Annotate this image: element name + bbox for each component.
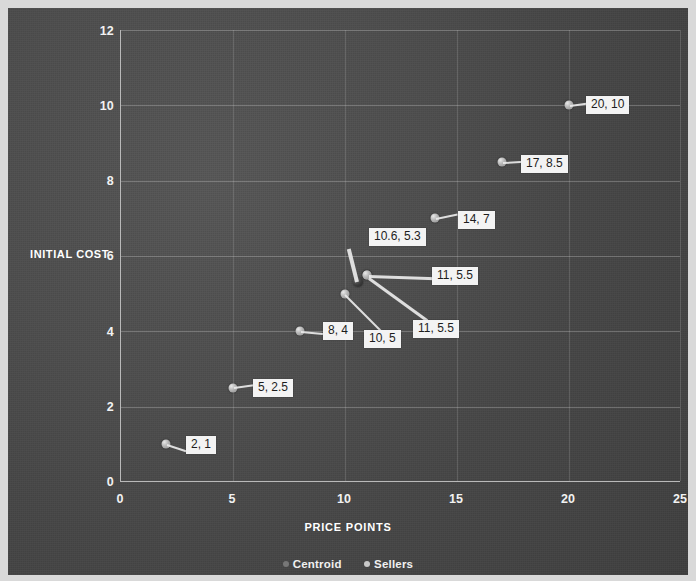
y-tick-8: 8 (90, 174, 114, 188)
leader-line-centroid (347, 249, 359, 283)
gridline-y-12 (121, 30, 680, 31)
gridline-x-25 (680, 30, 681, 481)
legend-label-sellers: Sellers (374, 558, 413, 570)
gridline-x-15 (457, 30, 458, 481)
gridline-y-8 (121, 181, 680, 182)
x-tick-0: 0 (117, 492, 124, 506)
gridline-x-5 (233, 30, 234, 481)
leader-line-11-5.5-b (368, 277, 428, 322)
x-tick-25: 25 (673, 492, 687, 506)
y-tick-0: 0 (90, 475, 114, 489)
leader-line-2-1 (167, 444, 187, 452)
callout-centroid: 10.6, 5.3 (369, 228, 426, 246)
y-tick-6: 6 (90, 249, 114, 263)
callout-2-1: 2, 1 (186, 436, 216, 454)
leader-line-14-7 (436, 213, 458, 220)
x-tick-15: 15 (449, 492, 463, 506)
x-tick-5: 5 (229, 492, 236, 506)
gridline-y-6 (121, 256, 680, 257)
callout-5-2.5: 5, 2.5 (253, 379, 293, 397)
legend-item-centroid[interactable]: Centroid (283, 558, 342, 570)
legend-item-sellers[interactable]: Sellers (364, 558, 413, 570)
callout-20-10: 20, 10 (586, 96, 629, 114)
callout-11-5.5-b: 11, 5.5 (413, 320, 459, 338)
legend-marker-sellers-icon (364, 561, 370, 567)
gridline-x-20 (569, 30, 570, 481)
x-axis-title: PRICE POINTS (8, 521, 688, 533)
gridline-x-10 (345, 30, 346, 481)
x-tick-10: 10 (337, 492, 351, 506)
callout-10-5: 10, 5 (364, 330, 401, 348)
chart-legend: Centroid Sellers (8, 554, 688, 572)
callout-8-4: 8, 4 (323, 322, 353, 340)
chart-canvas: INITIAL COST 12 10 8 6 4 2 0 0 5 10 15 2… (8, 8, 688, 575)
y-tick-2: 2 (90, 400, 114, 414)
y-tick-10: 10 (90, 99, 114, 113)
y-tick-4: 4 (90, 325, 114, 339)
y-tick-12: 12 (90, 24, 114, 38)
legend-label-centroid: Centroid (293, 558, 342, 570)
x-tick-20: 20 (561, 492, 575, 506)
scatter-chart: INITIAL COST 12 10 8 6 4 2 0 0 5 10 15 2… (0, 0, 696, 581)
gridline-y-2 (121, 407, 680, 408)
callout-11-5.5-a: 11, 5.5 (432, 267, 478, 285)
callout-14-7: 14, 7 (458, 211, 495, 229)
callout-17-8.5: 17, 8.5 (521, 155, 568, 173)
legend-marker-centroid-icon (283, 561, 289, 567)
